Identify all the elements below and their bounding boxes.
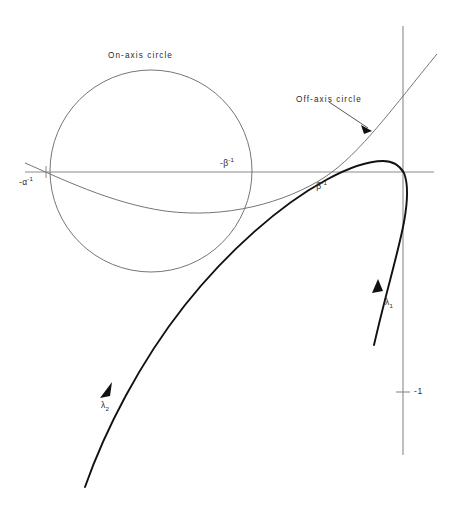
lambda1-label: λ1 xyxy=(385,298,393,309)
lambda1-subscript: 1 xyxy=(390,302,393,309)
alpha-inverse-exponent: -1 xyxy=(27,175,33,182)
root-locus-figure: On-axis circle Off-axis circle -α-1 -β-1… xyxy=(0,0,454,506)
off-axis-circle-label: Off-axis circle xyxy=(296,96,362,104)
beta-inverse-right-label: -β-1 xyxy=(313,180,327,190)
on-axis-circle xyxy=(50,70,252,272)
beta-inverse-left-label: -β-1 xyxy=(220,157,234,167)
lambda1-direction-arrow xyxy=(372,279,383,293)
lambda1-locus-branch xyxy=(374,161,407,345)
lambda2-label: λ2 xyxy=(101,401,109,412)
off-axis-circle-arc xyxy=(25,54,437,213)
on-axis-circle-label: On-axis circle xyxy=(108,52,173,60)
axes-group xyxy=(25,26,434,455)
off-axis-circle-leader-arrow xyxy=(361,125,372,134)
lambda2-subscript: 2 xyxy=(106,405,109,412)
figure-canvas xyxy=(0,0,454,506)
off-axis-circle-leader-line xyxy=(329,102,368,128)
beta-inverse-left-exponent: -1 xyxy=(228,156,234,163)
minus-one-tick-label: -1 xyxy=(414,387,423,396)
lambda2-direction-arrow xyxy=(100,382,112,398)
alpha-inverse-label: -α-1 xyxy=(19,176,33,186)
beta-inverse-right-exponent: -1 xyxy=(321,179,327,186)
